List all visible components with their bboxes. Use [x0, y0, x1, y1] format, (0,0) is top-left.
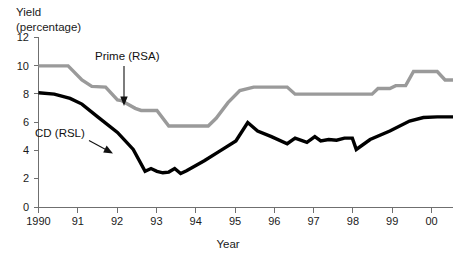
chart-title-line-1: Yield	[16, 6, 41, 18]
y-axis-tick-labels: 12 10 8 6 4 2 0	[17, 31, 29, 213]
y-label-10: 10	[17, 60, 29, 72]
x-axis-ticks	[39, 208, 432, 213]
y-axis-ticks	[34, 38, 39, 208]
x-label-1997: 97	[307, 215, 319, 227]
x-label-1992: 92	[111, 215, 123, 227]
x-label-1998: 98	[347, 215, 359, 227]
x-axis-title: Year	[216, 238, 239, 250]
x-label-1995: 95	[229, 215, 241, 227]
y-label-0: 0	[23, 201, 29, 213]
prime-annotation: Prime (RSA)	[95, 50, 160, 106]
cd-annotation-arrow-line	[89, 141, 108, 151]
x-label-1990: 1990	[26, 215, 50, 227]
y-label-2: 2	[23, 172, 29, 184]
x-label-1994: 94	[190, 215, 202, 227]
y-label-6: 6	[23, 116, 29, 128]
cd-annotation-label: CD (RSL)	[35, 127, 85, 139]
x-label-1999: 99	[386, 215, 398, 227]
y-label-12: 12	[17, 31, 29, 43]
cd-annotation: CD (RSL)	[35, 127, 113, 154]
cd-annotation-arrow-head	[103, 146, 113, 154]
line-chart-svg: Yield (percentage) 12 10 8 6 4 2 0	[0, 0, 458, 257]
x-label-1996: 96	[268, 215, 280, 227]
x-label-1993: 93	[150, 215, 162, 227]
y-label-4: 4	[23, 144, 29, 156]
x-label-2000: 00	[425, 215, 437, 227]
x-axis-tick-labels: 1990 91 92 93 94 95 96 97 98 99 00	[26, 215, 437, 227]
series-line-cd-rsl	[39, 93, 454, 174]
prime-annotation-label: Prime (RSA)	[95, 50, 160, 62]
x-label-1991: 91	[72, 215, 84, 227]
y-label-8: 8	[23, 88, 29, 100]
chart-container: Yield (percentage) 12 10 8 6 4 2 0	[0, 0, 458, 257]
